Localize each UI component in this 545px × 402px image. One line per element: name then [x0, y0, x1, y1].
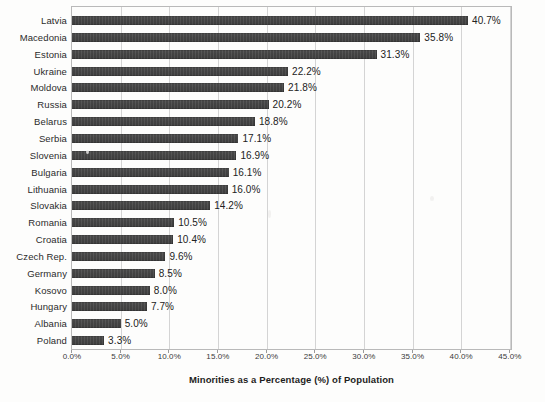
x-tick-mark [363, 350, 364, 353]
gridline [267, 7, 268, 349]
category-label: Poland [0, 335, 67, 347]
category-label: Belarus [0, 116, 67, 128]
x-axis-tick-labels: 0.0%5.0%10.0%15.0%20.0%25.0%30.0%35.0%40… [0, 352, 545, 368]
x-tick-mark [120, 350, 121, 353]
category-label: Albania [0, 318, 67, 330]
x-tick-mark [412, 350, 413, 353]
x-tick-mark [509, 350, 510, 353]
scan-speck [86, 150, 89, 154]
category-label: Croatia [0, 234, 67, 246]
category-label: Germany [0, 268, 67, 280]
x-axis-title: Minorities as a Percentage (%) of Popula… [71, 374, 512, 385]
category-label: Russia [0, 99, 67, 111]
scan-speck [268, 210, 271, 218]
category-label: Bulgaria [0, 167, 67, 179]
gridline [169, 7, 170, 349]
gridline [315, 7, 316, 349]
gridline [121, 7, 122, 349]
category-label: Serbia [0, 133, 67, 145]
plot-area [71, 6, 512, 350]
gridline [461, 7, 462, 349]
gridline [218, 7, 219, 349]
x-tick-mark [168, 350, 169, 353]
scan-speck [430, 196, 434, 201]
gridline [510, 7, 511, 349]
bar-chart: Latvia40.7%Macedonia35.8%Estonia31.3%Ukr… [0, 0, 545, 402]
category-label: Czech Rep. [0, 251, 67, 263]
gridline [413, 7, 414, 349]
x-tick-mark [460, 350, 461, 353]
gridline [364, 7, 365, 349]
category-label: Hungary [0, 301, 67, 313]
x-tick-mark [71, 350, 72, 353]
category-label: Ukraine [0, 66, 67, 78]
category-label: Kosovo [0, 285, 67, 297]
category-label: Estonia [0, 49, 67, 61]
category-label: Macedonia [0, 32, 67, 44]
category-label: Slovenia [0, 150, 67, 162]
category-label: Slovakia [0, 200, 67, 212]
x-tick-mark [217, 350, 218, 353]
category-label: Lithuania [0, 184, 67, 196]
category-label: Moldova [0, 82, 67, 94]
x-tick-label: 45.0% [480, 352, 540, 361]
category-label: Romania [0, 217, 67, 229]
x-tick-mark [314, 350, 315, 353]
x-tick-mark [266, 350, 267, 353]
category-label: Latvia [0, 15, 67, 27]
